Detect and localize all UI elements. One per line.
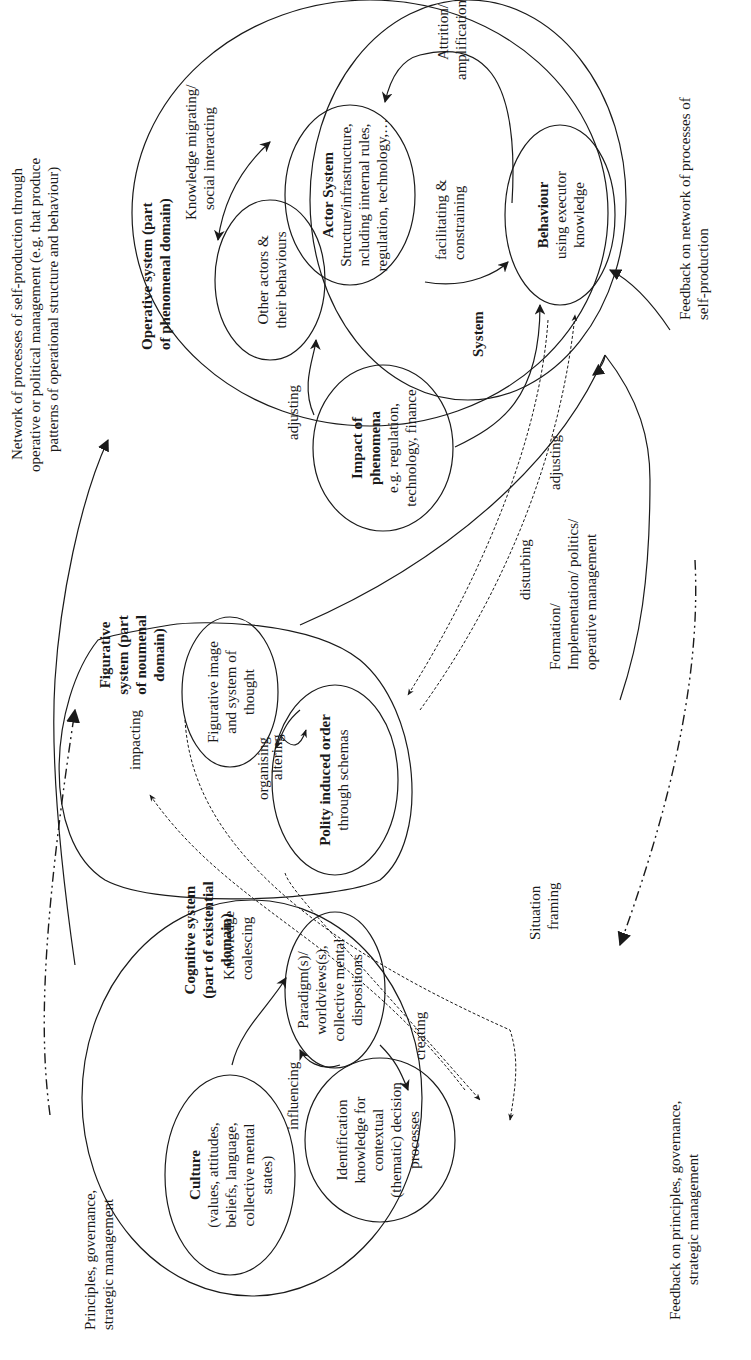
knowledge-coalescing-label-1: Knowledge xyxy=(221,911,237,980)
behaviour-line-1: using executor xyxy=(553,171,569,259)
influencing-label: influencing xyxy=(285,1061,301,1130)
impact-of-phenomena-node: Impact of phenomena e.g. regulation, tec… xyxy=(313,365,453,531)
culture-title: Culture xyxy=(187,1150,203,1200)
operative-domain: Operative system (part of phenomenal dom… xyxy=(132,0,626,531)
impact-line-1: e.g. regulation, xyxy=(385,403,401,493)
cognitive-domain: Cognitive system (part of existential do… xyxy=(82,881,455,1296)
figurative-title-4: domain) xyxy=(151,628,168,681)
facilitating-label-1: facilitating & xyxy=(433,179,449,260)
polity-node: Polity induced order through schemas xyxy=(272,685,398,875)
diagram-svg: Operative system (part of phenomenal dom… xyxy=(0,0,751,1360)
feedback-principles-label-2: strategic management xyxy=(685,1153,701,1285)
paradigm-line-4: dispositions xyxy=(349,954,365,1026)
impact-title-1: Impact of xyxy=(349,416,365,479)
identification-line-1: Identification xyxy=(334,1099,350,1180)
figurative-domain: Figurative system (part of noumenal doma… xyxy=(59,615,412,899)
disturbing-label: disturbing xyxy=(517,539,533,600)
culture-line-4: states) xyxy=(259,1156,276,1194)
attrition-label-1: Attrition/ xyxy=(435,3,451,60)
identification-line-2: knowledge for xyxy=(352,1096,368,1183)
figurative-image-line-2: and system of xyxy=(223,650,239,733)
behaviour-line-2: knowledge xyxy=(571,182,587,248)
situation-framing-label-1: Situation xyxy=(527,885,543,940)
paradigm-line-3: collective mental xyxy=(331,939,347,1042)
knowledge-migrating-arrow xyxy=(218,142,270,240)
formation-label-1: Formation/ xyxy=(547,603,563,670)
creating-label: creating xyxy=(412,1011,428,1060)
formation-label-2: Implementation/ politics/ xyxy=(565,518,581,670)
facilitating-label-2: constraining xyxy=(451,185,467,260)
feedback-principles-label-1: Feedback on principles, governance, xyxy=(667,1101,683,1321)
paradigm-node: Paradigm(s)/ worldviews(s), collective m… xyxy=(285,912,385,1068)
figurative-title-3: of noumenal xyxy=(133,615,149,695)
impacting-label: impacting xyxy=(127,710,143,770)
principles-label-2: strategic management xyxy=(100,1198,116,1330)
culture-line-3: collective mental xyxy=(241,1124,257,1227)
network-label-2: operative or political management (e.g. … xyxy=(27,158,44,472)
feedback-network-label-1: Feedback on network of processes of xyxy=(677,97,693,320)
feedback-principles-arrow xyxy=(620,560,696,945)
facilitating-arrow xyxy=(425,262,508,284)
actor-system-line-1: Structure/infrastructure, xyxy=(338,123,354,267)
feedback-network-arrow xyxy=(610,270,670,330)
adjusting-other-arrow xyxy=(308,340,316,415)
formation-label-3: operative management xyxy=(583,533,599,670)
figurative-image-line-1: Figurative image xyxy=(205,641,221,743)
paradigm-line-2: worldviews(s), xyxy=(313,945,330,1035)
disturbing-arrow xyxy=(408,320,548,695)
identification-node: Identification knowledge for contextual … xyxy=(305,1058,455,1222)
network-label-1: Network of processes of self-production … xyxy=(9,167,25,460)
culture-line-1: (values, attitudes, xyxy=(205,1122,222,1227)
adjusting-behaviour-arrow xyxy=(455,305,540,447)
figurative-title-1: Figurative xyxy=(97,621,113,688)
figurative-image-line-3: thought xyxy=(241,668,257,715)
cognitive-title-2: (part of existential xyxy=(200,881,217,998)
figurative-title-2: system (part xyxy=(115,615,132,695)
knowledge-coalescing-arrow xyxy=(232,978,286,1065)
attrition-label-2: amplification xyxy=(453,0,469,80)
actor-system-node: Actor System Structure/infrastructure, n… xyxy=(285,105,415,285)
other-actors-line-2: their behaviours xyxy=(273,231,289,328)
identification-line-3: contextual xyxy=(370,1109,386,1171)
feedback-network-label-2: self-production xyxy=(695,228,711,320)
self-production-flow-arrow xyxy=(54,440,108,965)
polity-line-1: through schemas xyxy=(335,729,351,830)
altering-label: altering xyxy=(269,734,285,780)
actor-system-line-3: regulation, technology,… xyxy=(374,119,390,272)
situation-framing-label-2: framing xyxy=(545,882,561,930)
diagram-canvas: Operative system (part of phenomenal dom… xyxy=(0,0,751,1360)
knowledge-migrating-label-1: Knowledge migrating/ xyxy=(183,84,199,220)
adjusting-other-label: adjusting xyxy=(285,385,301,440)
polity-title: Polity induced order xyxy=(317,714,333,846)
feedback-self-production-arrow xyxy=(593,355,650,700)
system-label: System xyxy=(470,311,486,357)
other-actors-line-1: Other actors & xyxy=(255,235,271,324)
operative-title-1: Operative system (part xyxy=(139,203,156,350)
network-label-3: patterns of operational structure and be… xyxy=(45,167,62,452)
behaviour-title: Behaviour xyxy=(535,181,551,248)
attrition-arrow xyxy=(385,51,513,203)
paradigm-line-1: Paradigm(s)/ xyxy=(295,950,312,1028)
culture-node: Culture (values, attitudes, beliefs, lan… xyxy=(165,1075,295,1275)
identification-line-5: processes xyxy=(406,1111,422,1169)
impact-line-2: technology, finance xyxy=(403,389,419,507)
other-actors-node: Other actors & their behaviours xyxy=(215,200,325,360)
cognitive-title-1: Cognitive system xyxy=(182,885,198,994)
culture-line-2: beliefs, language, xyxy=(223,1122,239,1227)
adjusting-behaviour-label: adjusting xyxy=(547,435,563,490)
operative-title-2: of phenomenal domain) xyxy=(157,198,174,350)
impact-title-2: phenomena xyxy=(367,410,383,485)
actor-system-line-2: ncluding iinternal rules, xyxy=(356,124,372,267)
principles-label-1: Principles, governance, xyxy=(82,1190,98,1330)
knowledge-coalescing-label-2: coalescing xyxy=(239,916,255,980)
actor-system-title: Actor System xyxy=(320,152,336,238)
identification-line-4: (thematic) decision xyxy=(388,1082,405,1198)
knowledge-migrating-label-2: social interacting xyxy=(201,107,217,210)
